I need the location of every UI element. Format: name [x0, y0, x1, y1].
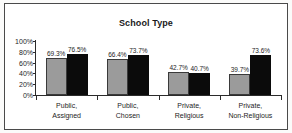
bar-value-label: 39.7% [231, 66, 249, 73]
x-axis-category-label: Public,Assigned [36, 101, 97, 120]
category-label-line1: Public, [56, 102, 77, 109]
bar-group-bars: 42.7%40.7% [159, 41, 220, 95]
x-axis-category-label: Private,Non-Religious [220, 101, 281, 120]
bar-group-bars: 66.4%73.7% [97, 41, 158, 95]
plot-area: 69.3%76.5%66.4%73.7%42.7%40.7%39.7%73.6% [36, 41, 281, 95]
bar-series-1-1[interactable]: 69.3% [46, 58, 67, 95]
category-separator [281, 96, 282, 100]
bar-value-label: 40.7% [190, 65, 208, 72]
bar-value-label: 69.3% [47, 50, 65, 57]
category-label-line1: Private, [177, 102, 201, 109]
bar-series-2-3[interactable]: 40.7% [189, 73, 210, 95]
category-separator [97, 96, 98, 100]
category-separator [220, 96, 221, 100]
bar-group: 42.7%40.7% [159, 41, 220, 95]
category-separator [36, 96, 37, 100]
category-label-line2: Chosen [97, 111, 158, 121]
bar-group-bars: 69.3%76.5% [36, 41, 97, 95]
category-label-line2: Non-Religious [220, 111, 281, 121]
x-axis-category-label: Public,Chosen [97, 101, 158, 120]
bar-series-1-4[interactable]: 39.7% [229, 74, 250, 95]
category-label-line2: Assigned [36, 111, 97, 121]
bar-value-label: 76.5% [68, 46, 86, 53]
bar-series-2-2[interactable]: 73.7% [128, 55, 149, 95]
bar-value-label: 42.7% [169, 64, 187, 71]
bar-series-2-1[interactable]: 76.5% [67, 54, 88, 95]
category-label-line1: Private, [239, 102, 263, 109]
bar-group-bars: 39.7%73.6% [220, 41, 281, 95]
chart-figure: School Type 100%80%60%40%20%0% 69.3%76.5… [0, 0, 292, 133]
bar-value-label: 73.6% [252, 47, 270, 54]
bar-group: 39.7%73.6% [220, 41, 281, 95]
y-axis-tick-marks [0, 41, 40, 95]
category-label-line2: Religious [159, 111, 220, 121]
bar-group: 66.4%73.7% [97, 41, 158, 95]
bar-series-2-4[interactable]: 73.6% [250, 55, 271, 95]
bar-series-1-3[interactable]: 42.7% [168, 72, 189, 95]
x-axis-category-label: Private,Religious [159, 101, 220, 120]
chart-title: School Type [0, 18, 292, 28]
bar-group: 69.3%76.5% [36, 41, 97, 95]
category-separator [159, 96, 160, 100]
bar-value-label: 66.4% [108, 51, 126, 58]
bar-series-1-2[interactable]: 66.4% [107, 59, 128, 95]
category-label-line1: Public, [117, 102, 138, 109]
bar-value-label: 73.7% [129, 47, 147, 54]
